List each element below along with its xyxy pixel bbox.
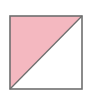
square-svg: [9, 15, 83, 90]
fraction-square-diagram: 1/2: [9, 15, 83, 90]
